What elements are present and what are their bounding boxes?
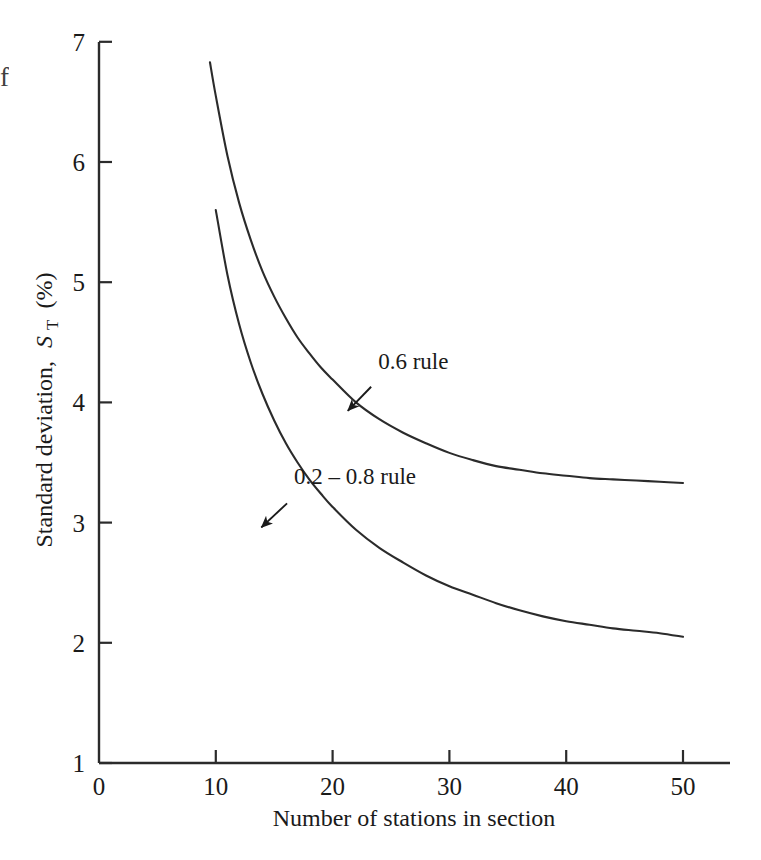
svg-text:Standard deviation, S: Standard deviation, S T (%) xyxy=(31,273,63,548)
y-tick-label: 1 xyxy=(73,750,86,777)
series-line-0-2-0-8-rule xyxy=(216,210,683,637)
x-tick-label: 30 xyxy=(437,773,462,800)
y-tick-label: 3 xyxy=(73,510,86,537)
x-tick-label-group: 01020304050 xyxy=(93,773,696,800)
x-tick-label: 10 xyxy=(203,773,228,800)
y-tick-label: 4 xyxy=(73,389,86,416)
chart-figure: f 1234567 01020304050 0.6 rule 0.2 – xyxy=(0,0,761,860)
annotation-label-0-2-0-8-rule: 0.2 – 0.8 rule xyxy=(294,464,416,489)
x-tick-label: 40 xyxy=(554,773,579,800)
y-tick-label: 2 xyxy=(73,630,86,657)
x-tick-label: 20 xyxy=(320,773,345,800)
annotation-arrow-0-2-0-8-rule xyxy=(261,503,287,527)
y-axis-title-units: (%) xyxy=(31,273,57,309)
x-axis-title: Number of stations in section xyxy=(273,805,556,831)
y-axis-title-main: Standard deviation, xyxy=(31,361,57,548)
series-line-0-6-rule xyxy=(210,62,683,483)
y-tick-label: 6 xyxy=(73,149,86,176)
x-tick-label: 50 xyxy=(671,773,696,800)
y-axis-title-symbol: S xyxy=(31,336,57,348)
y-tick-label-group: 1234567 xyxy=(73,29,86,777)
axes-group xyxy=(99,42,730,763)
y-tick-label: 7 xyxy=(73,29,86,56)
x-tick-group xyxy=(216,750,683,763)
x-tick-label: 0 xyxy=(93,773,106,800)
y-axis-title: Standard deviation, S T (%) xyxy=(31,273,63,548)
annotation-group: 0.6 rule 0.2 – 0.8 rule xyxy=(261,349,448,528)
y-tick-group xyxy=(99,42,112,763)
y-tick-label: 5 xyxy=(73,269,86,296)
annotation-label-0-6-rule: 0.6 rule xyxy=(378,349,448,374)
chart-svg: 1234567 01020304050 0.6 rule 0.2 – 0.8 r… xyxy=(0,0,761,860)
y-axis-title-subscript: T xyxy=(43,319,62,330)
left-edge-text-fragment: f xyxy=(0,62,9,93)
